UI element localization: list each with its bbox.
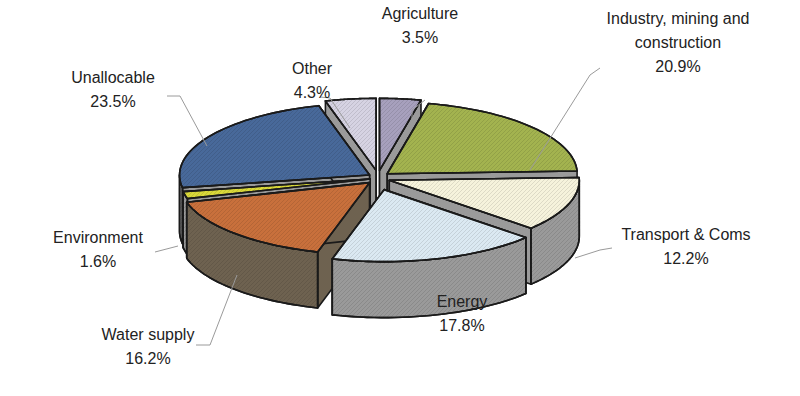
label-other: Other4.3% bbox=[292, 60, 333, 101]
label-value: 17.8% bbox=[439, 317, 484, 334]
label-name: Environment bbox=[53, 229, 143, 246]
label-unallocable: Unallocable23.5% bbox=[71, 69, 155, 110]
label-value: 23.5% bbox=[90, 93, 135, 110]
label-name: Unallocable bbox=[71, 69, 155, 86]
label-name: Other bbox=[292, 60, 333, 77]
label-name: Water supply bbox=[102, 326, 195, 343]
slice-sides bbox=[180, 98, 580, 317]
label-industry-mining-and-construction: Industry, mining andconstruction20.9% bbox=[607, 10, 750, 75]
label-environment: Environment1.6% bbox=[53, 229, 143, 270]
leader-line-environment bbox=[155, 246, 178, 252]
label-name: construction bbox=[635, 34, 721, 51]
label-transport-and-coms: Transport & Coms12.2% bbox=[621, 226, 750, 267]
label-value: 16.2% bbox=[125, 350, 170, 367]
pie-chart: Agriculture3.5%Industry, mining andconst… bbox=[0, 0, 800, 396]
label-name: Energy bbox=[437, 293, 488, 310]
label-value: 12.2% bbox=[663, 250, 708, 267]
leader-line-transport-and-coms bbox=[575, 248, 612, 258]
label-value: 4.3% bbox=[294, 84, 330, 101]
label-name: Transport & Coms bbox=[621, 226, 750, 243]
label-value: 1.6% bbox=[80, 253, 116, 270]
label-value: 20.9% bbox=[655, 58, 700, 75]
leader-line-unallocable bbox=[167, 96, 207, 146]
label-water-supply: Water supply16.2% bbox=[102, 326, 195, 367]
label-value: 3.5% bbox=[402, 29, 438, 46]
label-name: Agriculture bbox=[382, 5, 459, 22]
label-agriculture: Agriculture3.5% bbox=[382, 5, 459, 46]
label-name: Industry, mining and bbox=[607, 10, 750, 27]
